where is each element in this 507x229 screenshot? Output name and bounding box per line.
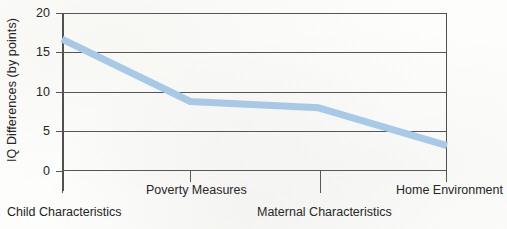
y-tick-label-20: 20 (24, 7, 50, 20)
plot-area (62, 13, 447, 171)
plot-right-border (446, 13, 447, 171)
chart-figure: IQ Differences (by points) 20 15 10 5 0 … (0, 0, 507, 229)
x-tick-mark-maternal-characteristics (320, 171, 321, 193)
gridline-15 (62, 52, 447, 53)
gridline-20 (62, 13, 447, 14)
y-tick-label-15: 15 (24, 46, 50, 59)
y-axis-title: IQ Differences (by points) (0, 0, 24, 180)
y-tick-label-5: 5 (24, 125, 50, 138)
gridline-10 (62, 92, 447, 93)
gridline-5 (62, 131, 447, 132)
x-axis-label-home-environment: Home Environment (396, 184, 503, 197)
x-axis-label-maternal-characteristics: Maternal Characteristics (257, 206, 392, 219)
gridline-0 (62, 170, 447, 171)
y-tick-label-10: 10 (24, 86, 50, 99)
y-axis-title-text: IQ Differences (by points) (5, 18, 19, 162)
x-axis-label-child-characteristics: Child Characteristics (7, 206, 122, 219)
x-tick-mark-poverty-measures (190, 171, 191, 182)
x-tick-mark-child-characteristics (62, 171, 63, 193)
x-tick-mark-home-environment (446, 171, 447, 182)
y-tick-label-0: 0 (24, 165, 50, 178)
x-axis-label-poverty-measures: Poverty Measures (146, 184, 247, 197)
